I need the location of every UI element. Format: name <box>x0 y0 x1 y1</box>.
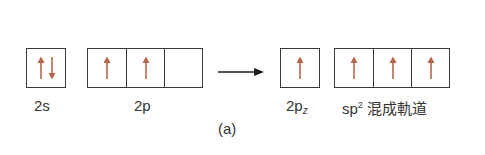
orbital-cell <box>411 49 449 87</box>
figure-caption: (a) <box>218 120 236 137</box>
spin-up-arrow-icon <box>389 56 397 80</box>
orbital-cell <box>335 49 373 87</box>
label-2p: 2p <box>134 97 151 114</box>
label-2pz: 2pz <box>286 97 308 116</box>
spin-up-arrow-icon <box>103 56 111 80</box>
label-2pz-subscript: z <box>303 105 308 116</box>
label-sp2-main: sp <box>342 100 358 117</box>
orbital-cell <box>88 49 126 87</box>
orbital-cell <box>126 49 164 87</box>
orbital-cell <box>281 49 319 87</box>
spin-down-arrow-icon <box>48 56 56 80</box>
orbital-sp2-boxes <box>334 48 450 88</box>
label-2pz-main: 2p <box>286 97 303 114</box>
label-sp2-hybrid: sp2 混成軌道 <box>342 97 427 118</box>
spin-up-arrow-icon <box>37 56 45 80</box>
spin-up-arrow-icon <box>427 56 435 80</box>
label-sp2-suffix: 混成軌道 <box>363 100 427 117</box>
orbital-cell <box>373 49 411 87</box>
orbital-cell <box>27 49 65 87</box>
orbital-2pz-box <box>280 48 320 88</box>
spin-up-arrow-icon <box>350 56 358 80</box>
orbital-cell-empty <box>164 49 202 87</box>
label-2s: 2s <box>34 97 50 114</box>
orbital-2p-boxes <box>87 48 203 88</box>
orbital-2s-box <box>26 48 66 88</box>
right-arrow-icon <box>218 63 264 81</box>
spin-up-arrow-icon <box>296 56 304 80</box>
spin-up-arrow-icon <box>142 56 150 80</box>
